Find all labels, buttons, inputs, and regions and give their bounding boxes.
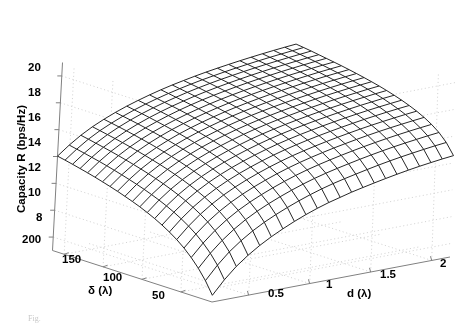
z-tick-14: 14: [28, 137, 41, 149]
z-axis-title: Capacity R (bps/Hz): [16, 105, 28, 213]
figure-caption-sliver: Fig.: [28, 314, 41, 323]
z-tick-20: 20: [28, 62, 41, 74]
x-tick-2: 2: [440, 258, 446, 270]
z-tick-10: 10: [28, 187, 41, 199]
y-tick-50: 50: [152, 290, 165, 302]
y-tick-150: 150: [62, 254, 81, 266]
y-tick-200: 200: [22, 234, 41, 246]
z-tick-16: 16: [28, 112, 41, 124]
y-tick-100: 100: [103, 272, 122, 284]
x-tick-1point5: 1.5: [380, 269, 396, 281]
y-axis-title: δ (λ): [88, 285, 112, 297]
z-tick-18: 18: [28, 87, 41, 99]
x-tick-0point5: 0.5: [268, 288, 284, 300]
z-tick-8: 8: [36, 212, 42, 224]
x-axis-title: d (λ): [347, 288, 371, 300]
x-tick-1: 1: [326, 279, 332, 291]
z-tick-12: 12: [28, 162, 41, 174]
